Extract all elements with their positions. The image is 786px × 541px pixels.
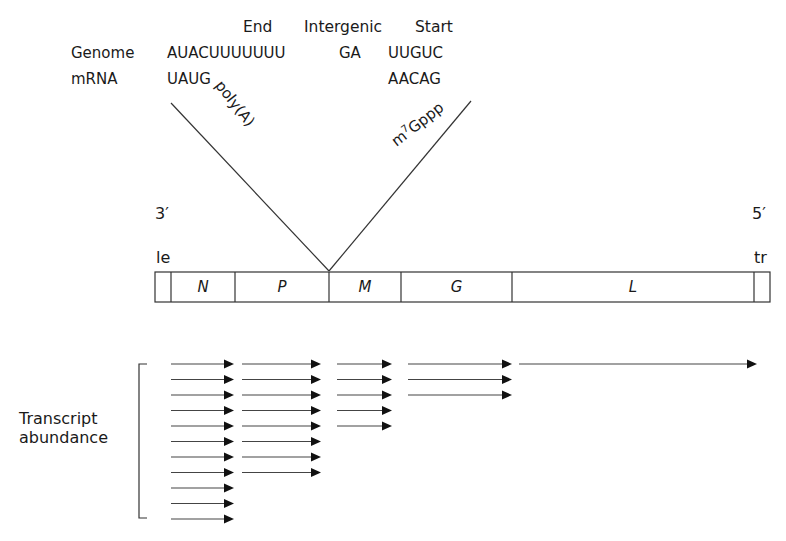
arrowhead-icon xyxy=(382,375,392,384)
end-junction-line xyxy=(171,103,329,271)
arrowhead-icon xyxy=(311,468,321,477)
gene-p: P xyxy=(235,272,329,302)
arrowhead-icon xyxy=(224,468,234,477)
transcript-arrows xyxy=(171,360,757,524)
gene-g: G xyxy=(401,272,512,302)
arrowhead-icon xyxy=(382,406,392,415)
arrowhead-icon xyxy=(224,453,234,462)
arrowhead-icon xyxy=(382,360,392,369)
arrowhead-icon xyxy=(747,360,757,369)
arrowhead-icon xyxy=(224,360,234,369)
transcript-label-line1: Transcript xyxy=(19,411,98,427)
arrowhead-icon xyxy=(382,391,392,400)
arrowhead-icon xyxy=(311,360,321,369)
arrowhead-icon xyxy=(311,422,321,431)
arrowhead-icon xyxy=(224,406,234,415)
arrowhead-icon xyxy=(224,422,234,431)
genome-map: N P M G L xyxy=(0,272,786,302)
arrowhead-icon xyxy=(224,391,234,400)
transcript-label-line2: abundance xyxy=(19,430,108,446)
arrowhead-icon xyxy=(311,453,321,462)
arrowhead-icon xyxy=(502,375,512,384)
gene-m: M xyxy=(329,272,401,302)
arrowhead-icon xyxy=(224,499,234,508)
gene-l: L xyxy=(512,272,754,302)
arrowhead-icon xyxy=(224,515,234,524)
arrowhead-icon xyxy=(382,422,392,431)
gene-n: N xyxy=(171,272,235,302)
arrowhead-icon xyxy=(502,360,512,369)
arrowhead-icon xyxy=(311,391,321,400)
arrowhead-icon xyxy=(311,437,321,446)
arrowhead-icon xyxy=(502,391,512,400)
diagram-lines xyxy=(0,0,786,541)
abundance-bracket xyxy=(139,364,147,518)
arrowhead-icon xyxy=(224,437,234,446)
arrowhead-icon xyxy=(311,406,321,415)
arrowhead-icon xyxy=(224,484,234,493)
start-junction-line xyxy=(329,101,471,271)
arrowhead-icon xyxy=(224,375,234,384)
arrowhead-icon xyxy=(311,375,321,384)
